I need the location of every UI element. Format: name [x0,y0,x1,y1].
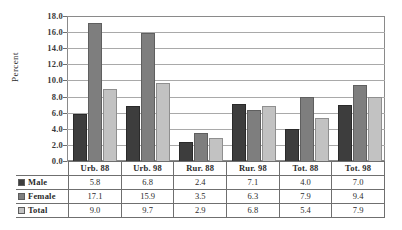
y-axis-title: Percent [10,32,20,102]
bar-group [173,16,226,161]
y-axis-tick-label: 8.0 [52,92,63,102]
table-cell: 2.9 [174,204,227,218]
category-header-2: Rur. 88 [174,162,227,176]
y-axis-tick-label: 10.0 [47,75,63,85]
y-axis-tick-label: 16.0 [47,27,63,37]
table-cell: 9.4 [332,190,385,204]
table-cell: 6.3 [227,190,280,204]
bar-group [279,16,332,161]
table-cell: 3.5 [174,190,227,204]
y-axis-tick-label: 18.0 [47,11,63,21]
bar-female-3 [247,110,261,161]
category-header-5: Tot. 98 [332,162,385,176]
table-cell: 7.0 [332,176,385,190]
category-header-1: Urb. 98 [121,162,174,176]
bar-male-1 [126,106,140,161]
table-body: Male5.86.82.47.14.07.0Female17.115.93.56… [16,176,385,218]
table-cell: 6.8 [227,204,280,218]
bar-chart-figure: Percent 18.016.014.012.010.08.06.04.02.0… [0,0,402,230]
bar-group [332,16,385,161]
legend-item-total: Total [16,204,69,218]
table-cell: 2.4 [174,176,227,190]
bar-female-1 [141,33,155,161]
bar-group [67,16,120,161]
bar-total-2 [209,138,223,161]
bar-female-2 [194,133,208,161]
bar-total-0 [103,89,117,162]
bar-female-0 [88,23,102,161]
table-cell: 7.9 [332,204,385,218]
legend-label: Female [28,191,56,201]
plot-area: 18.016.014.012.010.08.06.04.02.00.0 [67,16,385,161]
y-axis-tick-label: 14.0 [47,43,63,53]
table-cell: 6.8 [121,176,174,190]
bar-total-5 [368,97,382,161]
bar-total-3 [262,106,276,161]
legend-swatch-total-icon [18,207,25,214]
category-header-3: Rur. 98 [227,162,280,176]
table-row: Female17.115.93.56.37.99.4 [16,190,385,204]
legend-swatch-male-icon [18,179,25,186]
table-cell: 9.7 [121,204,174,218]
table-cell: 5.4 [279,204,332,218]
y-axis-tick-label: 2.0 [52,140,63,150]
bar-male-5 [338,105,352,161]
y-axis-tick-label: 6.0 [52,108,63,118]
legend-label: Total [28,205,48,215]
bar-male-2 [179,142,193,161]
bar-total-1 [156,83,170,161]
y-axis-tick-label: 4.0 [52,124,63,134]
table-cell: 17.1 [69,190,122,204]
table-cell: 9.0 [69,204,122,218]
table-cell: 4.0 [279,176,332,190]
table-cell: 15.9 [121,190,174,204]
table-cell: 7.9 [279,190,332,204]
bar-total-4 [315,118,329,162]
bar-male-4 [285,129,299,161]
bar-groups [67,16,385,161]
legend-item-male: Male [16,176,69,190]
bar-female-5 [353,85,367,161]
y-axis-tick-label: 12.0 [47,59,63,69]
legend-item-female: Female [16,190,69,204]
bar-group [120,16,173,161]
table-header-row: Urb. 88Urb. 98Rur. 88Rur. 98Tot. 88Tot. … [16,162,385,176]
legend-swatch-female-icon [18,193,25,200]
table-row: Total9.09.72.96.85.47.9 [16,204,385,218]
table-row: Male5.86.82.47.14.07.0 [16,176,385,190]
table-cell: 7.1 [227,176,280,190]
table-cell: 5.8 [69,176,122,190]
category-header-0: Urb. 88 [69,162,122,176]
category-header-4: Tot. 88 [279,162,332,176]
bar-male-3 [232,104,246,161]
table-corner-cell [16,162,69,176]
data-table: Urb. 88Urb. 98Rur. 88Rur. 98Tot. 88Tot. … [16,161,385,218]
bar-group [226,16,279,161]
bar-female-4 [300,97,314,161]
legend-label: Male [28,177,47,187]
bar-male-0 [73,114,87,161]
